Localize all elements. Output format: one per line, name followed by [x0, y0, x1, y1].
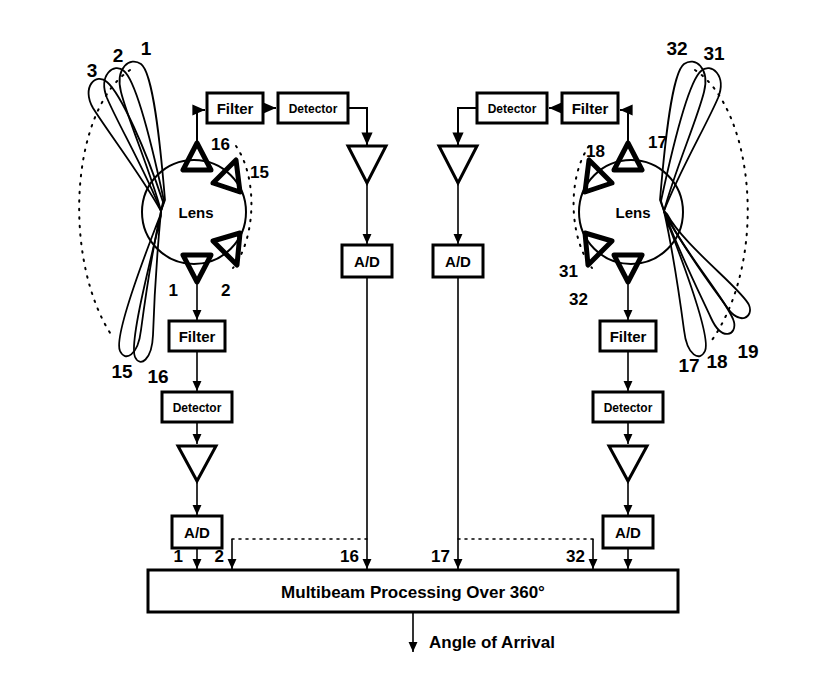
detector-label-right-lower: Detector	[604, 401, 653, 415]
left-beam-label-16: 16	[147, 366, 168, 387]
processing-bar-label: Multibeam Processing Over 360°	[281, 583, 545, 602]
filter-label-right-upper: Filter	[572, 100, 609, 117]
adc-label-left-lower: A/D	[184, 524, 210, 541]
detector-label-right-upper: Detector	[488, 102, 537, 116]
right-beam-label-32: 32	[666, 38, 687, 59]
left-horn-label-16: 16	[211, 135, 230, 154]
channel-label-1: 1	[174, 547, 183, 566]
left-beam-label-15: 15	[111, 361, 133, 382]
amplifier-triangle-left-lower	[178, 446, 216, 481]
amplifier-triangle-right-upper	[439, 146, 477, 183]
right-beam-label-31: 31	[703, 43, 725, 64]
left-horn-label-2: 2	[221, 281, 230, 300]
right-horn-label-32: 32	[569, 290, 588, 309]
left-horn-label-15: 15	[250, 163, 269, 182]
detector-label-left-lower: Detector	[173, 401, 222, 415]
filter-label-right-lower: Filter	[610, 328, 647, 345]
left-lens-label: Lens	[178, 204, 213, 221]
adc-label-right-lower: A/D	[615, 524, 641, 541]
amplifier-triangle-left-upper	[348, 146, 386, 183]
left-horn-label-1: 1	[169, 281, 178, 300]
adc-label-left-upper: A/D	[354, 253, 380, 270]
right-lens-label: Lens	[615, 204, 650, 221]
left-beam-lobes-lower	[119, 211, 161, 362]
right-horn-label-17: 17	[648, 133, 667, 152]
multibeam-antenna-diagram: Filter Detector A/D Filter Detector A/D …	[0, 0, 825, 698]
amplifier-triangle-right-lower	[609, 446, 647, 481]
filter-label-left-lower: Filter	[179, 328, 216, 345]
left-beam-label-3: 3	[87, 60, 98, 81]
detector-label-left-upper: Detector	[289, 102, 338, 116]
right-beam-label-19: 19	[737, 341, 758, 362]
channel-label-32: 32	[566, 547, 585, 566]
channel-ellipsis-connectors	[232, 539, 593, 569]
left-beam-label-2: 2	[113, 45, 124, 66]
channel-label-17: 17	[431, 547, 450, 566]
right-horn-label-18: 18	[586, 142, 605, 161]
right-beam-label-17: 17	[678, 355, 699, 376]
right-beam-lobes-upper	[660, 62, 721, 211]
left-beam-label-1: 1	[141, 38, 152, 59]
channel-label-16: 16	[340, 547, 359, 566]
adc-label-right-upper: A/D	[445, 253, 471, 270]
right-horn-label-31: 31	[559, 262, 578, 281]
left-beam-lobes-upper	[89, 62, 165, 211]
filter-label-left-upper: Filter	[217, 100, 254, 117]
channel-label-2: 2	[215, 547, 224, 566]
right-beam-label-18: 18	[706, 351, 727, 372]
angle-of-arrival-label: Angle of Arrival	[429, 633, 555, 652]
